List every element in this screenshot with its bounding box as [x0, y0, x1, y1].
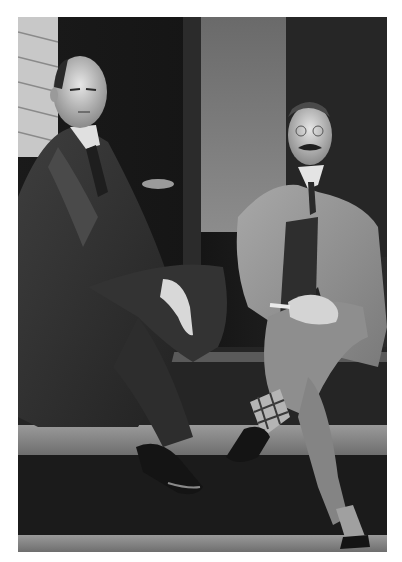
door-frame — [183, 17, 201, 287]
photo-scene — [18, 17, 387, 552]
photograph — [18, 17, 387, 552]
house-siding — [18, 17, 58, 157]
